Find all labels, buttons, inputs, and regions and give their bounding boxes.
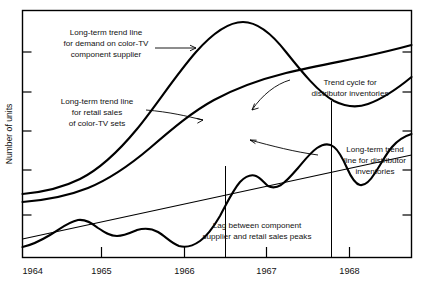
annotation-line: Long-term trend line [70,28,143,37]
trend-line-chart: Long-term trend line for demand on color… [0,0,434,286]
annotation-line: component supplier [71,50,142,59]
x-tick-label: 1966 [174,266,194,276]
x-tick-label: 1964 [23,266,43,276]
annotation-supplier-label: Long-term trend line for demand on color… [63,28,149,59]
x-tick-label: 1968 [339,266,359,276]
annotation-line: Long-term trend [346,145,404,154]
annotation-line: Trend cycle for [323,78,377,87]
annotation-line: supplier and retail sales peaks [203,232,312,241]
y-axis-title: Number of units [4,104,14,165]
annotation-line: inventories [355,167,394,176]
x-tick-label: 1967 [256,266,276,276]
annotation-line: for retail sales [72,108,122,117]
annotation-line: of color-TV sets [69,119,126,128]
annotation-line: Lag between component [213,221,302,230]
annotation-line: Long-term trend line [61,97,134,106]
x-tick-label: 1965 [91,266,111,276]
annotation-line: distributor inventories [312,89,389,98]
chart-figure: Long-term trend line for demand on color… [0,0,434,286]
annotation-line: line for distributor [344,156,406,165]
annotation-line: for demand on color-TV [63,39,149,48]
